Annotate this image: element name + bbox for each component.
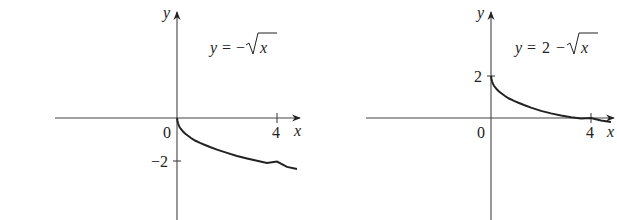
svg-text:2: 2 [542,39,550,56]
svg-text:y: y [208,39,218,57]
left-y-tick-label: −2 [151,153,168,170]
left-equation: y = − x [208,33,277,57]
svg-text:y: y [513,39,523,57]
right-x-axis-label: x [606,123,614,140]
right-curve [491,76,611,122]
right-origin-label: 0 [477,124,485,141]
svg-text:−: − [236,39,245,56]
svg-text:−: − [556,39,565,56]
figure: y x 0 4 −2 y = − x y x 0 4 2 y = 2 − [0,0,617,220]
right-y-tick-label: 2 [474,68,482,85]
left-x-tick-label: 4 [272,124,280,141]
right-x-tick-label: 4 [586,124,594,141]
svg-text:x: x [259,39,267,56]
svg-text:=: = [222,39,231,56]
left-y-axis-label: y [161,4,171,22]
svg-text:x: x [580,39,588,56]
right-equation: y = 2 − x [513,33,598,57]
left-origin-label: 0 [163,124,171,141]
svg-text:=: = [527,39,536,56]
left-graph: y x 0 4 −2 y = − x [55,4,301,220]
left-x-axis-label: x [293,122,301,139]
right-y-axis-label: y [475,4,485,22]
right-graph: y x 0 4 2 y = 2 − x [366,4,614,220]
